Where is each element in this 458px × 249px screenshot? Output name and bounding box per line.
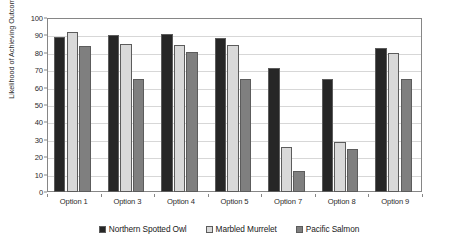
bar [401,79,412,192]
x-axis-tick-mark [208,194,209,197]
bar-group [315,18,369,192]
bar-group [261,18,315,192]
x-axis-tick-label: Option 4 [154,197,208,206]
bar-group [208,18,262,192]
x-axis-tick-label: Option 3 [101,197,155,206]
x-axis-tick-mark [315,194,316,197]
bar [79,46,90,192]
chart-legend: Northern Spotted OwlMarbled MurreletPaci… [0,221,458,237]
x-axis-tick-label: Option 7 [261,197,315,206]
y-axis-tick-label: 10 [35,170,43,179]
y-axis-tick-label: 70 [35,66,43,75]
x-axis-tick-label: Option 9 [368,197,422,206]
bar-group [368,18,422,192]
y-axis: 0102030405060708090100 [0,0,47,192]
bars-layer [47,18,422,192]
x-axis-tick-label: Option 5 [208,197,262,206]
bar [174,45,185,192]
legend-item[interactable]: Pacific Salmon [296,224,359,234]
y-axis-tick-label: 90 [35,31,43,40]
x-axis: Option 1Option 3Option 4Option 5Option 7… [47,194,422,212]
bar [322,79,333,192]
bar [67,32,78,192]
legend-swatch-black-icon [99,226,106,233]
legend-item-label: Northern Spotted Owl [109,224,187,234]
y-axis-tick-label: 50 [35,101,43,110]
bar [108,35,119,192]
y-axis-tick-label: 100 [31,14,43,23]
bar [347,149,358,193]
bar-group [154,18,208,192]
bar [240,79,251,192]
x-axis-tick-mark [47,194,48,197]
bar [120,44,131,192]
y-axis-tick-label: 0 [39,188,43,197]
legend-item-label: Marbled Murrelet [216,224,277,234]
x-axis-tick-mark [368,194,369,197]
legend-item[interactable]: Marbled Murrelet [206,224,277,234]
legend-swatch-light-gray-icon [206,226,213,233]
bar [375,48,386,192]
bar [54,37,65,192]
legend-item-label: Pacific Salmon [306,224,359,234]
x-axis-tick-mark [154,194,155,197]
x-axis-tick-mark [101,194,102,197]
x-axis-tick-mark [422,194,423,197]
y-axis-tick-label: 40 [35,118,43,127]
bar [334,142,345,192]
y-axis-tick-label: 80 [35,48,43,57]
legend-item[interactable]: Northern Spotted Owl [99,224,187,234]
y-axis-tick-label: 20 [35,153,43,162]
bar [215,38,226,192]
bar-chart: Likelihood of Achieving Outcome A 010203… [0,0,458,249]
bar [186,52,197,192]
x-axis-tick-mark [261,194,262,197]
legend-swatch-medium-gray-icon [296,226,303,233]
bar-group [101,18,155,192]
bar [293,171,304,192]
bar [268,68,279,192]
bar [227,45,238,192]
bar-group [47,18,101,192]
x-axis-tick-label: Option 8 [315,197,369,206]
x-axis-tick-label: Option 1 [47,197,101,206]
bar [133,79,144,192]
y-axis-tick-label: 30 [35,135,43,144]
y-axis-tick-label: 60 [35,83,43,92]
bar [281,147,292,192]
bar [388,53,399,192]
bar [161,34,172,192]
